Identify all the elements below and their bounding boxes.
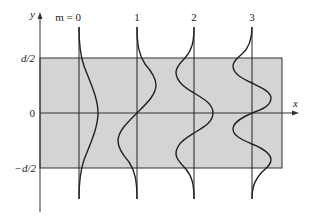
x-axis-arrow-icon [292,111,299,116]
tick-label-zero: 0 [30,107,36,119]
diagram-canvas: x y d/2 0 −d/2 m = 0 1 2 [0,0,313,220]
mode-label-1: 1 [134,11,140,23]
y-axis-label: y [29,8,35,20]
y-axis-arrow-icon [38,12,43,19]
waveguide-mode-diagram: x y d/2 0 −d/2 m = 0 1 2 [0,0,313,220]
x-axis-label: x [292,97,298,109]
mode-label-3: 3 [249,11,255,23]
tick-label-bottom: −d/2 [15,162,37,174]
mode-label-0: m = 0 [55,11,81,23]
tick-label-top: d/2 [21,52,36,64]
mode-label-2: 2 [191,11,197,23]
